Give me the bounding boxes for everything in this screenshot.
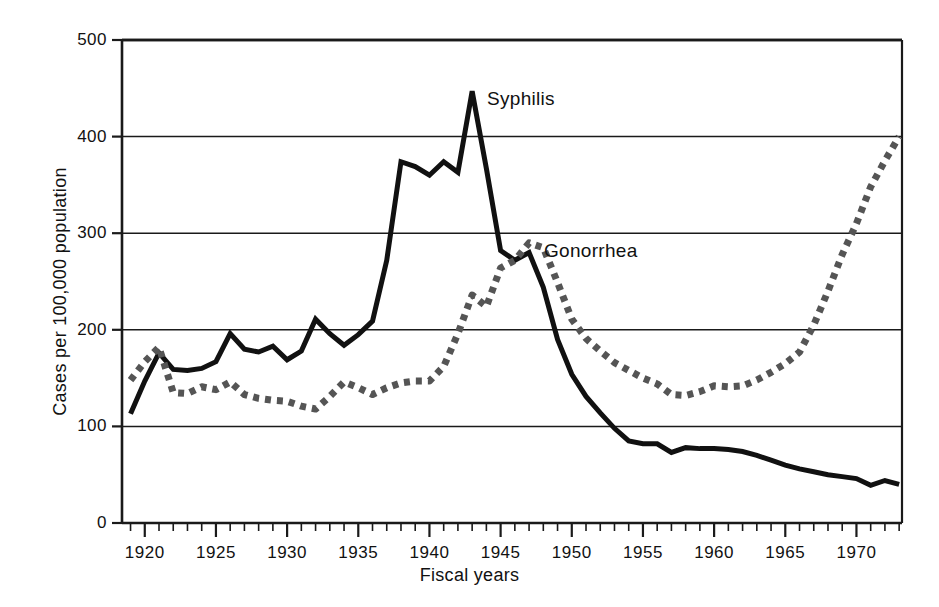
x-tick-label: 1920 (125, 543, 165, 563)
x-tick-label: 1970 (837, 543, 877, 563)
y-tick-label: 400 (52, 127, 107, 147)
x-axis-tick-marks (131, 523, 900, 537)
x-tick-label: 1925 (196, 543, 236, 563)
y-tick-label: 0 (52, 513, 107, 533)
y-tick-label: 300 (52, 223, 107, 243)
y-axis-tick-marks (112, 40, 122, 523)
series-label-syphilis: Syphilis (487, 88, 555, 110)
x-tick-label: 1940 (410, 543, 450, 563)
x-tick-label: 1950 (552, 543, 592, 563)
series-label-gonorrhea: Gonorrhea (544, 240, 638, 262)
x-tick-label: 1955 (623, 543, 663, 563)
x-axis-title: Fiscal years (0, 565, 939, 586)
series-line-gonorrhea (131, 137, 900, 409)
x-tick-label: 1935 (338, 543, 378, 563)
x-tick-label: 1930 (267, 543, 307, 563)
chart-figure: Cases per 100,000 population Fiscal year… (0, 0, 939, 607)
y-tick-label: 500 (52, 30, 107, 50)
x-tick-label: 1960 (694, 543, 734, 563)
y-tick-label: 200 (52, 320, 107, 340)
x-tick-label: 1965 (765, 543, 805, 563)
axis-frame (122, 40, 902, 523)
y-tick-label: 100 (52, 416, 107, 436)
chart-plot-area (0, 0, 939, 607)
x-tick-label: 1945 (481, 543, 521, 563)
